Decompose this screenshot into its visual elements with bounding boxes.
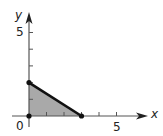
- x-tick-label-5: 5: [113, 121, 121, 133]
- origin-label: 0: [16, 120, 24, 132]
- vertex-point-x-intercept: [79, 113, 84, 118]
- vertex-point-y-intercept: [26, 80, 31, 85]
- vertex-point-origin: [26, 113, 31, 118]
- y-tick-label-5: 5: [16, 26, 24, 38]
- coordinate-plane: [0, 0, 163, 136]
- x-axis-label: x: [151, 108, 158, 120]
- y-axis-label: y: [15, 9, 22, 21]
